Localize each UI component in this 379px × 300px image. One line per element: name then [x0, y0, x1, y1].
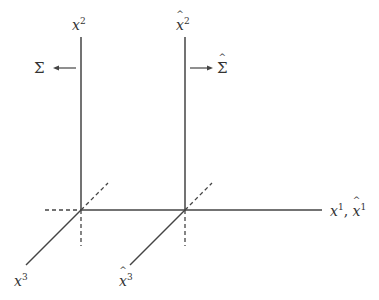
- label-base: x: [330, 203, 338, 219]
- label-base-hat: x: [176, 18, 184, 32]
- label-base: x: [14, 273, 22, 289]
- right-depth-axis: [130, 210, 185, 265]
- left-depth-axis-label: x3: [14, 273, 28, 288]
- right-depth-axis-label: x3: [119, 273, 133, 288]
- right-vertical-axis-label: x2: [176, 17, 190, 32]
- left-arrowhead-icon: [53, 66, 59, 71]
- label-superscript: 2: [80, 16, 86, 26]
- right-depth-dashed: [185, 183, 212, 210]
- left-depth-axis: [26, 210, 81, 265]
- sigma-symbol: Σ: [34, 59, 45, 77]
- label-separator: ,: [344, 203, 348, 219]
- sigma-hat-symbol: Σ: [217, 61, 228, 76]
- label-superscript: 3: [22, 272, 28, 282]
- left-sigma-label: Σ: [34, 61, 45, 76]
- label-base: x: [72, 17, 80, 33]
- coordinate-diagram: [0, 0, 379, 300]
- label-base-hat: x: [353, 204, 361, 218]
- right-arrowhead-icon: [207, 66, 213, 71]
- label-superscript: 3: [127, 272, 133, 282]
- label-base-hat: x: [119, 274, 127, 288]
- horizontal-axis-label: x1, x1: [330, 203, 366, 218]
- left-depth-dashed: [81, 183, 108, 210]
- label-superscript: 1: [360, 202, 366, 212]
- label-superscript: 2: [184, 16, 190, 26]
- left-vertical-axis-label: x2: [72, 17, 86, 32]
- right-sigma-label: Σ: [217, 61, 228, 76]
